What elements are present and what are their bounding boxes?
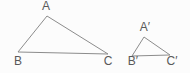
triangle-abc: A B C: [14, 0, 113, 68]
diagram-svg: A B C A′ B′ C′: [0, 0, 190, 73]
triangle-a-prime-b-prime-c-prime: A′ B′ C′: [128, 20, 178, 68]
vertex-label-b: B: [14, 54, 22, 68]
vertex-label-a-prime: A′: [140, 20, 151, 34]
geometry-diagram: A B C A′ B′ C′: [0, 0, 190, 73]
vertex-label-c-prime: C′: [167, 54, 179, 68]
vertex-label-b-prime: B′: [128, 54, 139, 68]
triangle-abc-outline: [18, 16, 108, 54]
vertex-label-c: C: [104, 54, 113, 68]
vertex-label-a: A: [42, 0, 50, 13]
